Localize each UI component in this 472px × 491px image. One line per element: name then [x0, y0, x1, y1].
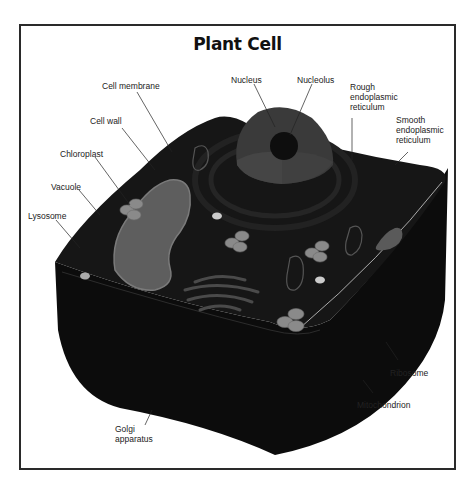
diagram-title: Plant Cell [19, 34, 456, 54]
label-chloroplast: Chloroplast [60, 149, 103, 159]
label-lysosome: Lysosome [28, 211, 66, 221]
label-cell-membrane: Cell membrane [102, 81, 160, 91]
nucleolus [270, 132, 298, 160]
plant-cell-illustration [0, 0, 472, 491]
label-mitochondrion: Mitochondrion [357, 400, 410, 410]
label-smooth-er: Smooth endoplasmic reticulum [396, 115, 444, 145]
label-nucleolus: Nucleolus [297, 75, 334, 85]
label-cell-wall: Cell wall [90, 116, 122, 126]
label-ribosome: Ribosome [390, 368, 428, 378]
label-golgi-apparatus: Golgi apparatus [115, 424, 153, 444]
label-vacuole: Vacuole [51, 182, 81, 192]
label-rough-er: Rough endoplasmic reticulum [350, 82, 398, 112]
label-nucleus: Nucleus [231, 75, 262, 85]
lysosome [80, 273, 90, 280]
